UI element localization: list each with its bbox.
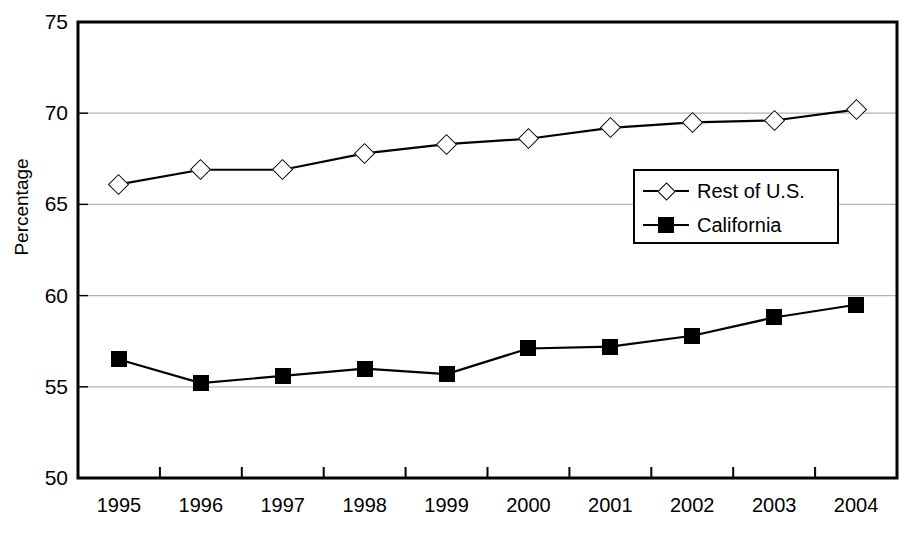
y-tick-label-65: 65 (16, 193, 68, 214)
y-tick-label-70: 70 (16, 102, 68, 123)
data-point-filled-square (684, 328, 700, 344)
line-chart: Percentage 757065605550 1995199619971998… (0, 0, 910, 534)
plot-area (0, 0, 910, 534)
x-tick-label-2003: 2003 (729, 495, 819, 515)
legend-label-rest-of-us: Rest of U.S. (697, 181, 805, 201)
x-tick-label-2001: 2001 (565, 495, 655, 515)
data-point-filled-square (275, 368, 291, 384)
x-tick-label-1996: 1996 (156, 495, 246, 515)
x-tick-label-2000: 2000 (483, 495, 573, 515)
legend-entry-rest-of-us: Rest of U.S. (635, 174, 837, 208)
y-tick-label-75: 75 (16, 11, 68, 32)
data-point-filled-square (520, 340, 536, 356)
data-point-filled-square (193, 375, 209, 391)
legend: Rest of U.S. California (633, 169, 839, 244)
series-lines (119, 110, 856, 384)
data-point-filled-square (111, 351, 127, 367)
x-tick-label-2002: 2002 (647, 495, 737, 515)
gridlines (78, 113, 897, 387)
y-tick-label-60: 60 (16, 285, 68, 306)
data-point-filled-square (602, 339, 618, 355)
x-tick-label-1999: 1999 (402, 495, 492, 515)
data-point-filled-square (766, 309, 782, 325)
x-tick-label-1997: 1997 (238, 495, 328, 515)
data-point-filled-square (357, 361, 373, 377)
plot-frame (78, 22, 897, 478)
legend-label-california: California (697, 215, 781, 235)
filled-square-icon (635, 210, 697, 240)
open-diamond-icon (635, 176, 697, 206)
y-tick-label-55: 55 (16, 376, 68, 397)
data-point-filled-square (439, 366, 455, 382)
x-tick-label-1995: 1995 (74, 495, 164, 515)
data-point-filled-square (848, 297, 864, 313)
x-tick-label-2004: 2004 (811, 495, 901, 515)
x-axis-ticks (160, 467, 815, 478)
legend-entry-california: California (635, 208, 837, 242)
y-tick-label-50: 50 (16, 467, 68, 488)
x-tick-label-1998: 1998 (320, 495, 410, 515)
